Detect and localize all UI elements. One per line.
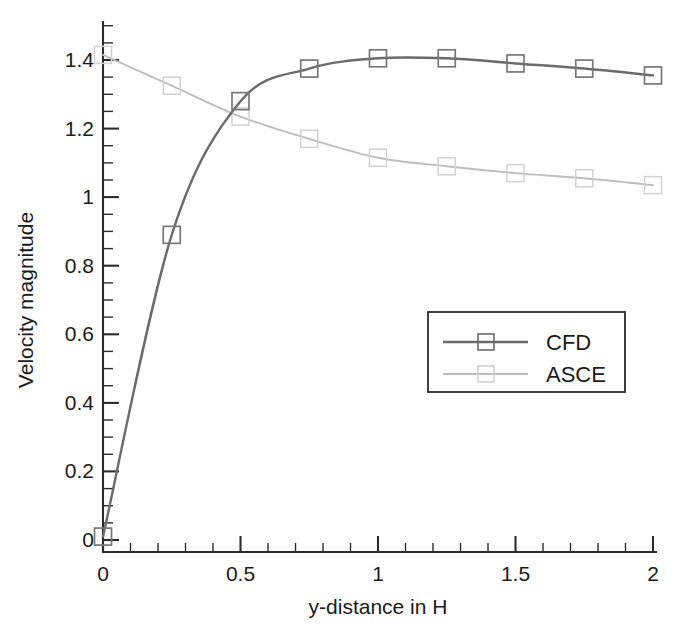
x-tick-labels: 0 0.5 1 1.5 2 [97, 562, 659, 585]
x-axis-ticks [103, 536, 653, 552]
y-tick-labels: 1.4 1.2 1 0.8 0.6 0.4 0.2 0 [65, 48, 95, 551]
y-axis-title: Velocity magnitude [14, 212, 37, 388]
y-tick-label: 0.6 [65, 322, 94, 345]
x-tick-label: 1 [372, 562, 384, 585]
y-tick-label: 0.8 [65, 254, 94, 277]
axis-lines [103, 22, 656, 552]
data-series-layer [95, 46, 662, 545]
x-axis-title: y-distance in H [309, 595, 448, 618]
y-tick-label: 1.2 [65, 117, 94, 140]
series-line-cfd [103, 57, 653, 536]
x-tick-label: 0 [97, 562, 109, 585]
line-chart: 1.4 1.2 1 0.8 0.6 0.4 0.2 0 0 0.5 1 1.5 … [0, 0, 687, 629]
y-tick-label: 0.4 [65, 391, 95, 414]
y-tick-label: 1 [82, 185, 94, 208]
y-tick-label: 1.4 [65, 48, 95, 71]
chart-figure: 1.4 1.2 1 0.8 0.6 0.4 0.2 0 0 0.5 1 1.5 … [0, 0, 687, 629]
legend-label-cfd: CFD [546, 330, 591, 355]
y-axis-ticks [103, 26, 119, 540]
x-tick-label: 1.5 [501, 562, 530, 585]
legend-label-asce: ASCE [546, 362, 606, 387]
chart-legend[interactable]: CFD ASCE [428, 312, 625, 392]
x-tick-label: 2 [647, 562, 659, 585]
series-cfd [95, 50, 662, 545]
y-tick-label: 0.2 [65, 459, 94, 482]
x-tick-label: 0.5 [226, 562, 255, 585]
y-tick-label: 0 [82, 528, 94, 551]
